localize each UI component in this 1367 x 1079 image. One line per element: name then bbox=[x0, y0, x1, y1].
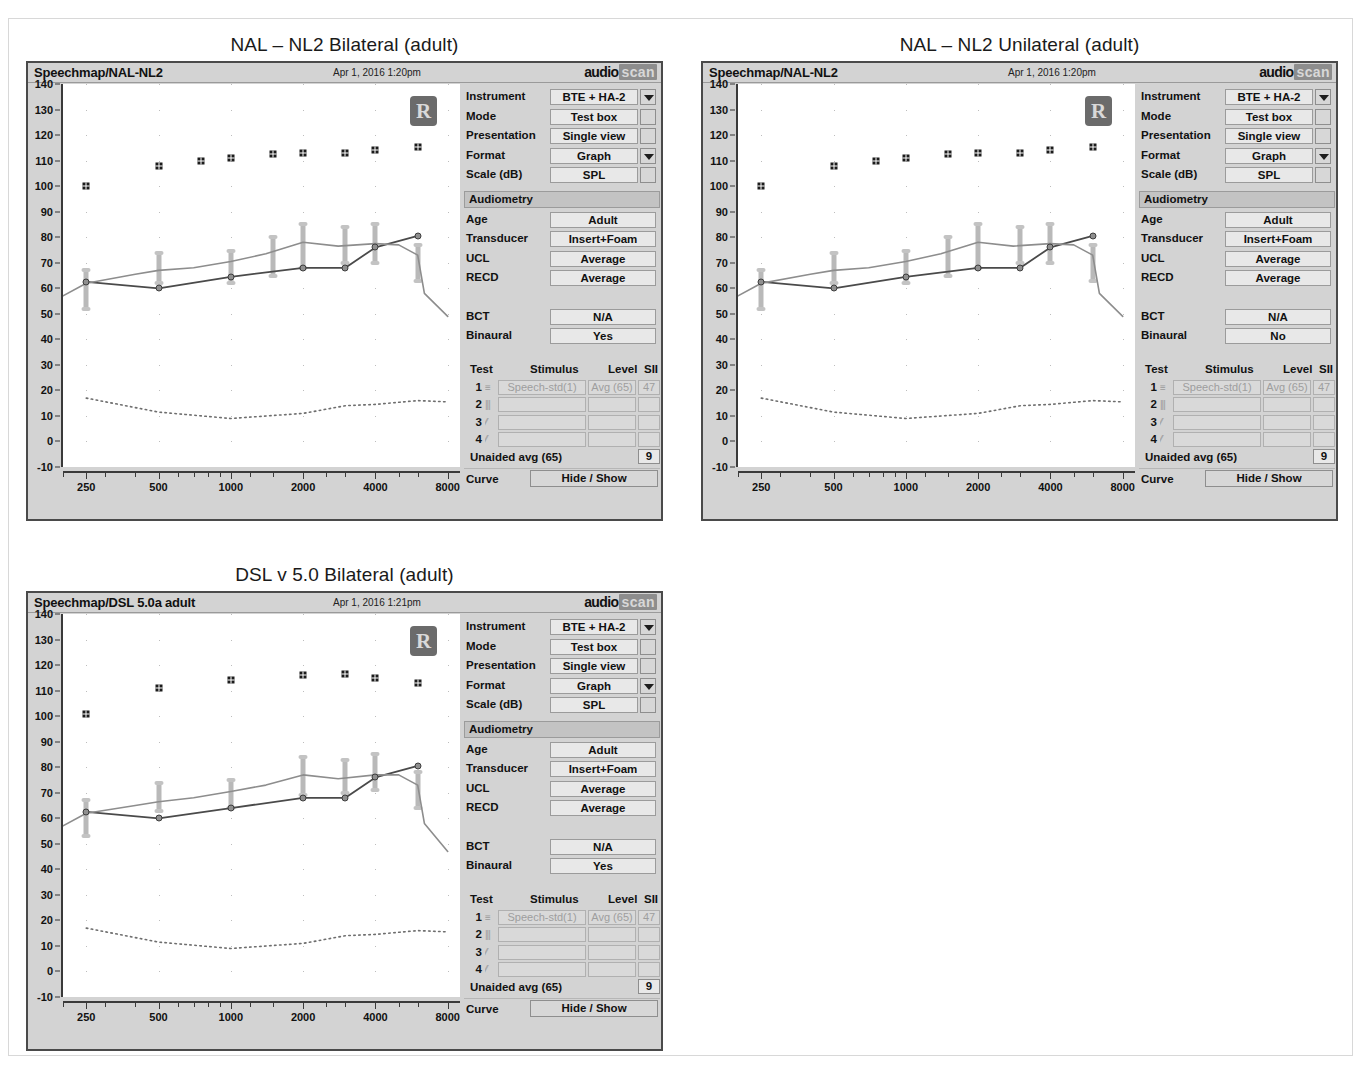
checkbox-toggle[interactable] bbox=[1315, 128, 1331, 144]
test-stimulus-cell[interactable]: Speech-std(1) bbox=[1173, 380, 1261, 395]
chevron-down-icon[interactable] bbox=[640, 678, 656, 694]
audiometry-row-bct[interactable]: BCTN/A bbox=[464, 838, 660, 857]
control-row-format[interactable]: FormatGraph bbox=[464, 147, 660, 166]
audiometry-row-ucl[interactable]: UCLAverage bbox=[464, 250, 660, 269]
test-table-row[interactable]: 4⁄⁄ bbox=[468, 961, 658, 978]
control-value-field[interactable]: Graph bbox=[1225, 148, 1313, 164]
audiometry-row-ucl[interactable]: UCLAverage bbox=[1139, 250, 1335, 269]
control-value-field[interactable]: Single view bbox=[550, 128, 638, 144]
audiometry-row-age[interactable]: AgeAdult bbox=[464, 211, 660, 230]
test-table-row[interactable]: 1≡Speech-std(1)Avg (65)47 bbox=[1143, 379, 1333, 396]
control-value-field[interactable]: Graph bbox=[550, 148, 638, 164]
audiometry-row-recd[interactable]: RECDAverage bbox=[464, 269, 660, 288]
test-level-cell[interactable] bbox=[1263, 415, 1311, 430]
test-sii-cell[interactable] bbox=[1313, 432, 1335, 447]
audiometry-value[interactable]: Insert+Foam bbox=[550, 231, 656, 247]
test-sii-cell[interactable] bbox=[638, 927, 660, 942]
test-table-row[interactable]: 2||| bbox=[468, 396, 658, 413]
test-level-cell[interactable]: Avg (65) bbox=[588, 910, 636, 925]
audiometry-value[interactable]: Average bbox=[550, 251, 656, 267]
audiometry-value[interactable]: N/A bbox=[550, 839, 656, 855]
test-sii-cell[interactable] bbox=[638, 945, 660, 960]
audiometry-row-ucl[interactable]: UCLAverage bbox=[464, 780, 660, 799]
test-level-cell[interactable] bbox=[588, 927, 636, 942]
test-sii-cell[interactable] bbox=[638, 415, 660, 430]
control-row-instrument[interactable]: InstrumentBTE + HA-2 bbox=[464, 88, 660, 107]
stimulus-type-icon[interactable]: ⁄⁄ bbox=[1160, 434, 1172, 445]
control-value-field[interactable]: Test box bbox=[1225, 109, 1313, 125]
test-sii-cell[interactable]: 47 bbox=[638, 380, 660, 395]
chevron-down-icon[interactable] bbox=[1315, 148, 1331, 164]
audiometry-row-recd[interactable]: RECDAverage bbox=[1139, 269, 1335, 288]
test-table-row[interactable]: 1≡Speech-std(1)Avg (65)47 bbox=[468, 379, 658, 396]
audiometry-row-binaural[interactable]: BinauralNo bbox=[1139, 327, 1335, 346]
checkbox-toggle[interactable] bbox=[640, 109, 656, 125]
stimulus-type-icon[interactable]: ≡ bbox=[1160, 382, 1172, 393]
audiometry-row-bct[interactable]: BCTN/A bbox=[464, 308, 660, 327]
audiometry-row-transducer[interactable]: TransducerInsert+Foam bbox=[1139, 230, 1335, 249]
control-value-field[interactable]: SPL bbox=[550, 167, 638, 183]
test-level-cell[interactable] bbox=[1263, 432, 1311, 447]
test-level-cell[interactable] bbox=[588, 962, 636, 977]
test-sii-cell[interactable] bbox=[638, 962, 660, 977]
test-sii-cell[interactable]: 47 bbox=[1313, 380, 1335, 395]
audiometry-value[interactable]: Adult bbox=[1225, 212, 1331, 228]
stimulus-type-icon[interactable]: ⁄⁄ bbox=[485, 964, 497, 975]
test-stimulus-cell[interactable] bbox=[498, 397, 586, 412]
audiometry-value[interactable]: Average bbox=[1225, 251, 1331, 267]
test-stimulus-cell[interactable] bbox=[1173, 397, 1261, 412]
test-table-row[interactable]: 1≡Speech-std(1)Avg (65)47 bbox=[468, 909, 658, 926]
control-row-mode[interactable]: ModeTest box bbox=[464, 638, 660, 657]
control-value-field[interactable]: SPL bbox=[550, 697, 638, 713]
stimulus-type-icon[interactable]: ≡ bbox=[485, 912, 497, 923]
test-stimulus-cell[interactable]: Speech-std(1) bbox=[498, 380, 586, 395]
test-stimulus-cell[interactable] bbox=[1173, 415, 1261, 430]
control-value-field[interactable]: BTE + HA-2 bbox=[550, 89, 638, 105]
stimulus-type-icon[interactable]: ⁄⁄ bbox=[485, 417, 497, 428]
audiometry-row-age[interactable]: AgeAdult bbox=[464, 741, 660, 760]
audiometry-row-binaural[interactable]: BinauralYes bbox=[464, 857, 660, 876]
checkbox-toggle[interactable] bbox=[640, 658, 656, 674]
audiometry-row-age[interactable]: AgeAdult bbox=[1139, 211, 1335, 230]
stimulus-type-icon[interactable]: ⁄⁄ bbox=[1160, 417, 1172, 428]
test-stimulus-cell[interactable] bbox=[1173, 432, 1261, 447]
control-value-field[interactable]: SPL bbox=[1225, 167, 1313, 183]
test-table-row[interactable]: 3⁄⁄ bbox=[1143, 414, 1333, 431]
test-sii-cell[interactable] bbox=[1313, 397, 1335, 412]
test-level-cell[interactable] bbox=[588, 945, 636, 960]
audiometry-value[interactable]: Average bbox=[550, 270, 656, 286]
test-stimulus-cell[interactable] bbox=[498, 432, 586, 447]
control-row-presentation[interactable]: PresentationSingle view bbox=[464, 127, 660, 146]
audiometry-value[interactable]: Average bbox=[550, 800, 656, 816]
test-level-cell[interactable] bbox=[588, 397, 636, 412]
test-stimulus-cell[interactable] bbox=[498, 962, 586, 977]
control-row-instrument[interactable]: InstrumentBTE + HA-2 bbox=[1139, 88, 1335, 107]
stimulus-type-icon[interactable]: ⁄⁄ bbox=[485, 434, 497, 445]
test-sii-cell[interactable] bbox=[638, 397, 660, 412]
audiometry-value[interactable]: No bbox=[1225, 328, 1331, 344]
audiometry-row-bct[interactable]: BCTN/A bbox=[1139, 308, 1335, 327]
audiometry-value[interactable]: Adult bbox=[550, 212, 656, 228]
control-row-scale-db[interactable]: Scale (dB)SPL bbox=[464, 166, 660, 185]
control-value-field[interactable]: Single view bbox=[550, 658, 638, 674]
control-row-scale-db[interactable]: Scale (dB)SPL bbox=[1139, 166, 1335, 185]
test-level-cell[interactable] bbox=[588, 415, 636, 430]
test-sii-cell[interactable] bbox=[1313, 415, 1335, 430]
control-row-instrument[interactable]: InstrumentBTE + HA-2 bbox=[464, 618, 660, 637]
hide-show-button[interactable]: Hide / Show bbox=[530, 1000, 658, 1017]
hide-show-button[interactable]: Hide / Show bbox=[530, 470, 658, 487]
test-table-row[interactable]: 2||| bbox=[1143, 396, 1333, 413]
control-row-presentation[interactable]: PresentationSingle view bbox=[1139, 127, 1335, 146]
control-value-field[interactable]: BTE + HA-2 bbox=[1225, 89, 1313, 105]
control-row-mode[interactable]: ModeTest box bbox=[464, 108, 660, 127]
audiometry-value[interactable]: N/A bbox=[550, 309, 656, 325]
audiometry-row-transducer[interactable]: TransducerInsert+Foam bbox=[464, 760, 660, 779]
test-level-cell[interactable]: Avg (65) bbox=[588, 380, 636, 395]
hide-show-button[interactable]: Hide / Show bbox=[1205, 470, 1333, 487]
test-stimulus-cell[interactable] bbox=[498, 927, 586, 942]
audiometry-value[interactable]: Average bbox=[1225, 270, 1331, 286]
audiometry-row-transducer[interactable]: TransducerInsert+Foam bbox=[464, 230, 660, 249]
checkbox-toggle[interactable] bbox=[640, 128, 656, 144]
test-level-cell[interactable] bbox=[588, 432, 636, 447]
control-value-field[interactable]: Test box bbox=[550, 109, 638, 125]
